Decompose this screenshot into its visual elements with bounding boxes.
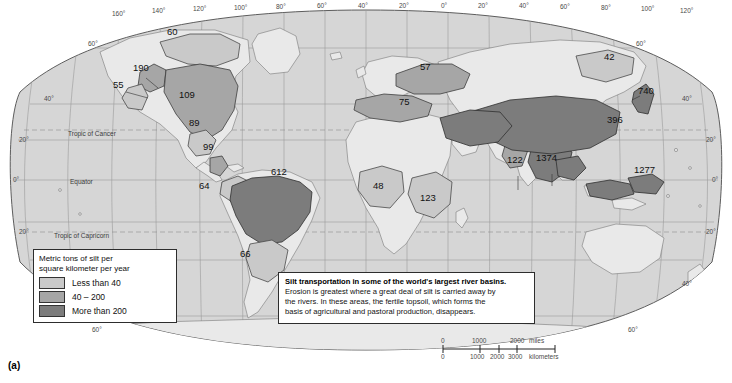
svg-text:80°: 80° bbox=[601, 4, 611, 11]
basin-value-zambezi: 123 bbox=[420, 192, 436, 203]
svg-text:0°: 0° bbox=[441, 2, 448, 9]
svg-text:100°: 100° bbox=[641, 5, 655, 12]
svg-text:miles: miles bbox=[529, 337, 545, 344]
scale-bar-graphic bbox=[443, 345, 555, 353]
basin-value-amazon: 612 bbox=[271, 166, 287, 177]
svg-text:Tropic of Cancer: Tropic of Cancer bbox=[68, 130, 117, 138]
legend-row-mid[interactable]: 40 – 200 bbox=[39, 291, 171, 303]
legend-row-high[interactable]: More than 200 bbox=[39, 305, 171, 317]
svg-text:2000: 2000 bbox=[490, 353, 505, 360]
legend-title: Metric tons of silt per square kilometer… bbox=[39, 254, 171, 274]
svg-text:3000: 3000 bbox=[508, 353, 523, 360]
legend-title-line1: Metric tons of silt per bbox=[39, 254, 171, 264]
svg-text:80°: 80° bbox=[276, 3, 286, 10]
svg-text:40°: 40° bbox=[519, 2, 529, 9]
basin-value-rio-grande: 89 bbox=[189, 117, 200, 128]
svg-text:20°: 20° bbox=[706, 228, 716, 235]
svg-text:1000: 1000 bbox=[470, 353, 485, 360]
legend-label-mid: 40 – 200 bbox=[72, 292, 105, 302]
panel-label: (a) bbox=[8, 360, 20, 371]
svg-text:20°: 20° bbox=[478, 2, 488, 9]
svg-text:60°: 60° bbox=[628, 326, 638, 333]
svg-text:0: 0 bbox=[441, 337, 445, 344]
svg-text:20°: 20° bbox=[399, 2, 409, 9]
svg-text:120°: 120° bbox=[193, 5, 207, 12]
legend-title-line2: square kilometer per year bbox=[39, 264, 171, 274]
svg-text:120°: 120° bbox=[680, 7, 694, 14]
svg-text:40°: 40° bbox=[682, 95, 692, 102]
basin-value-mediterranean: 75 bbox=[399, 96, 410, 107]
map-legend: Metric tons of silt per square kilometer… bbox=[33, 249, 177, 323]
scale-bar-kilometers: 0 1000 2000 3000 kilometers bbox=[441, 353, 559, 360]
basin-value-mackenzie: 60 bbox=[167, 26, 178, 37]
legend-row-low[interactable]: Less than 40 bbox=[39, 277, 171, 289]
basin-value-huang-he: 396 bbox=[607, 114, 623, 125]
svg-text:Tropic of Capricorn: Tropic of Capricorn bbox=[54, 232, 109, 240]
svg-text:0°: 0° bbox=[13, 176, 20, 183]
basin-value-niger: 48 bbox=[373, 180, 384, 191]
svg-text:60°: 60° bbox=[636, 40, 646, 47]
svg-text:60°: 60° bbox=[560, 3, 570, 10]
svg-text:Equator: Equator bbox=[70, 178, 94, 186]
basin-value-japan-rivers: 740 bbox=[638, 85, 654, 96]
basin-value-danube-volga: 57 bbox=[420, 61, 431, 72]
svg-text:0: 0 bbox=[441, 353, 445, 360]
caption-line2: the rivers. In these areas, the fertile … bbox=[285, 297, 528, 307]
basin-value-magdalena: 99 bbox=[203, 141, 214, 152]
svg-text:60°: 60° bbox=[88, 40, 98, 47]
basin-value-paran-: 66 bbox=[240, 248, 251, 259]
basin-value-yukon: 190 bbox=[133, 62, 149, 73]
caption-line3: basis of agricultural and pastoral produ… bbox=[285, 307, 528, 317]
svg-text:160°: 160° bbox=[112, 10, 126, 17]
basin-value-mississippi: 109 bbox=[179, 89, 195, 100]
svg-text:60°: 60° bbox=[317, 2, 327, 9]
svg-text:60°: 60° bbox=[92, 326, 102, 333]
svg-text:kilometers: kilometers bbox=[529, 353, 559, 360]
svg-text:20°: 20° bbox=[19, 136, 29, 143]
svg-text:140°: 140° bbox=[152, 7, 166, 14]
legend-swatch-low bbox=[39, 277, 65, 289]
caption-title: Silt transportation in some of the world… bbox=[285, 277, 528, 287]
legend-swatch-high bbox=[39, 305, 65, 317]
svg-text:2000: 2000 bbox=[510, 337, 525, 344]
caption-line1: Erosion is greatest where a great deal o… bbox=[285, 287, 528, 297]
legend-label-low: Less than 40 bbox=[72, 278, 121, 288]
scale-bar-miles: 0 1000 2000 miles bbox=[441, 337, 545, 344]
basin-value-indonesia-new-guinea: 1277 bbox=[634, 164, 655, 175]
basin-value-fraser-columbia: 55 bbox=[113, 79, 124, 90]
svg-text:1000: 1000 bbox=[472, 337, 487, 344]
svg-text:20°: 20° bbox=[19, 228, 29, 235]
basin-value-orinoco: 64 bbox=[199, 180, 210, 191]
basin-value-indus: 122 bbox=[507, 154, 523, 165]
figure-world-silt-map: 160° 140° 120° 100° 80° 60° 40° 20° 0° 2… bbox=[0, 0, 732, 383]
basin-value-ganges-brahmaputra: 1374 bbox=[536, 152, 557, 163]
svg-text:40°: 40° bbox=[682, 280, 692, 287]
svg-text:100°: 100° bbox=[234, 4, 248, 11]
svg-text:40°: 40° bbox=[44, 95, 54, 102]
scale-bar: 0 1000 2000 miles 0 1000 2000 3000 kilom… bbox=[437, 337, 562, 361]
svg-text:20°: 20° bbox=[706, 136, 716, 143]
svg-text:0°: 0° bbox=[712, 176, 719, 183]
caption-box: Silt transportation in some of the world… bbox=[278, 272, 535, 324]
basin-value-amur: 42 bbox=[604, 51, 615, 62]
legend-swatch-mid bbox=[39, 291, 65, 303]
svg-text:40°: 40° bbox=[358, 2, 368, 9]
legend-label-high: More than 200 bbox=[72, 306, 127, 316]
